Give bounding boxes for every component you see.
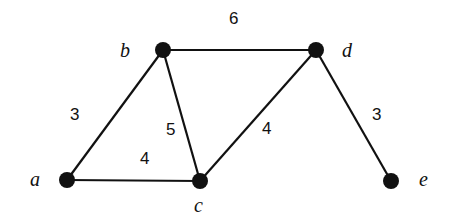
node-c: [192, 173, 208, 189]
node-a: [59, 172, 75, 188]
edge-c-d: [200, 50, 316, 181]
nodes: [59, 42, 399, 189]
edge-weight-b-c: 5: [166, 120, 175, 139]
node-label-d: d: [342, 39, 353, 61]
node-labels: abcde: [30, 39, 428, 216]
node-label-e: e: [419, 168, 428, 190]
node-label-c: c: [194, 194, 203, 216]
edge-a-c: [67, 180, 200, 181]
edge-weight-c-d: 4: [262, 119, 271, 138]
graph-diagram: 635443 abcde: [0, 0, 453, 219]
node-e: [383, 173, 399, 189]
edge-b-c: [163, 50, 200, 181]
edge-weight-a-b: 3: [70, 105, 79, 124]
node-d: [308, 42, 324, 58]
edge-weight-b-d: 6: [229, 9, 238, 28]
node-label-a: a: [30, 168, 40, 190]
edge-weights: 635443: [70, 9, 381, 168]
edge-weight-d-e: 3: [372, 105, 381, 124]
edges: [67, 50, 391, 181]
node-b: [155, 42, 171, 58]
edge-weight-a-c: 4: [140, 149, 149, 168]
node-label-b: b: [120, 39, 130, 61]
